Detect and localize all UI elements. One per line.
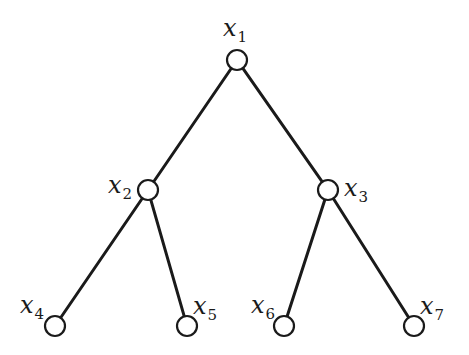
edge-x2-x4 — [61, 198, 143, 317]
edge-x1-x3 — [243, 68, 323, 182]
label-x1: x1 — [223, 16, 247, 45]
label-x5: x5 — [193, 294, 217, 323]
node-x2 — [138, 180, 158, 200]
label-x6: x6 — [251, 293, 275, 322]
edge-x2-x5 — [151, 200, 184, 317]
node-x4 — [45, 316, 65, 336]
node-x6 — [274, 316, 294, 336]
node-x3 — [318, 180, 338, 200]
edge-x3-x7 — [333, 198, 408, 317]
edge-x1-x2 — [154, 68, 232, 181]
edge-x3-x6 — [287, 200, 325, 317]
tree-graphic — [0, 0, 469, 355]
label-x2: x2 — [108, 173, 132, 202]
tree-diagram: x1 x2 x3 x4 x5 x6 x7 — [0, 0, 469, 355]
label-x3: x3 — [344, 176, 368, 205]
node-x1 — [227, 50, 247, 70]
label-x7: x7 — [420, 294, 444, 323]
label-x4: x4 — [20, 293, 44, 322]
